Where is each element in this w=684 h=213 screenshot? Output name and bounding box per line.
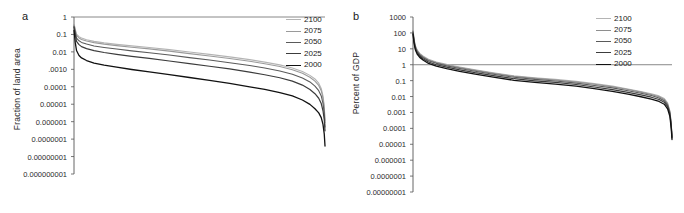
legend-swatch-2025	[596, 52, 611, 53]
legend-swatch-2050	[286, 42, 301, 43]
series-line-2000	[413, 34, 672, 139]
legend-item-2025: 2025	[286, 48, 322, 59]
legend-swatch-2050	[596, 41, 611, 42]
y-tick-label: 0.00000001	[318, 188, 406, 197]
y-tick-label: 1	[318, 60, 406, 69]
legend-b: 21002075205020252000	[596, 13, 632, 70]
figure-container: a Fraction of land area 10.10.01.00100.0…	[0, 0, 684, 213]
y-tick-label: 0.0001	[0, 82, 67, 91]
y-tick-label: 0.00001	[0, 100, 67, 109]
legend-item-2100: 2100	[596, 13, 632, 24]
legend-item-2000: 2000	[596, 59, 632, 70]
y-tick-label: 0.1	[318, 76, 406, 85]
legend-item-2025: 2025	[596, 47, 632, 58]
y-tick-label: 0.001	[318, 108, 406, 117]
y-tick-label: 0.01	[0, 47, 67, 56]
series-line-2025	[413, 33, 672, 138]
y-tick-label: 1000	[318, 13, 406, 22]
y-tick-label: .0010	[0, 65, 67, 74]
legend-label-2000: 2000	[614, 60, 632, 68]
legend-swatch-2000	[596, 64, 611, 65]
y-tick-label: 100	[318, 28, 406, 37]
legend-item-2075: 2075	[596, 24, 632, 35]
legend-label-2100: 2100	[614, 15, 632, 23]
legend-item-2075: 2075	[286, 25, 322, 36]
y-tick-label: 10	[318, 44, 406, 53]
legend-item-2000: 2000	[286, 60, 322, 71]
y-tick-label: 1	[0, 13, 67, 22]
legend-swatch-2075	[286, 31, 301, 32]
legend-label-2050: 2050	[614, 37, 632, 45]
legend-label-2025: 2025	[614, 49, 632, 57]
legend-swatch-2100	[286, 19, 301, 20]
series-line-2050	[413, 32, 672, 138]
y-tick-label: 0.000001	[318, 156, 406, 165]
y-tick-label: 0.00000001	[0, 152, 67, 161]
legend-item-2100: 2100	[286, 14, 322, 25]
legend-label-2075: 2075	[614, 26, 632, 34]
legend-item-2050: 2050	[286, 37, 322, 48]
legend-swatch-2000	[286, 65, 301, 66]
y-tick-label: 0.0000001	[318, 172, 406, 181]
legend-item-2050: 2050	[596, 36, 632, 47]
y-tick-label: 0.00001	[318, 140, 406, 149]
chart-panel-b: b Percent of GDP 10001001010.10.010.0010…	[342, 0, 684, 213]
legend-swatch-2075	[596, 30, 611, 31]
y-tick-label: 0.0000001	[0, 135, 67, 144]
legend-a: 21002075205020252000	[286, 14, 322, 71]
legend-swatch-2100	[596, 18, 611, 19]
y-tick-label: 0.000000001	[0, 170, 67, 179]
y-tick-label: 0.01	[318, 92, 406, 101]
y-tick-label: 0.1	[0, 30, 67, 39]
chart-panel-a: a Fraction of land area 10.10.01.00100.0…	[0, 0, 342, 213]
y-tick-label: 0.0001	[318, 124, 406, 133]
y-tick-label: 0.000001	[0, 117, 67, 126]
legend-swatch-2025	[286, 53, 301, 54]
